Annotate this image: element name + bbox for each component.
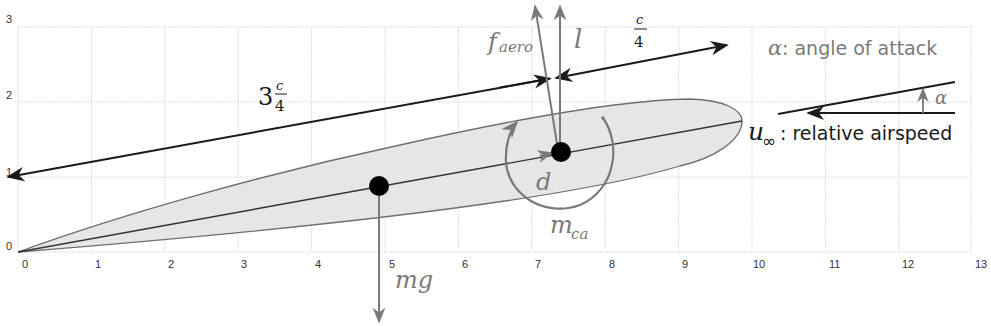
- angle-of-attack-inset: α: [778, 82, 955, 114]
- x-tick: 7: [535, 258, 541, 270]
- airspeed-legend: u ∞ : relative airspeed: [748, 117, 952, 151]
- svg-text:α: α: [935, 87, 947, 108]
- angle-of-attack-legend: α : angle of attack: [768, 36, 937, 60]
- aerodynamic-center-dot: [551, 142, 571, 162]
- svg-text:4: 4: [634, 33, 644, 51]
- weight-label: mg: [395, 266, 433, 294]
- svg-text:ca: ca: [571, 225, 588, 243]
- svg-text:: relative airspeed: : relative airspeed: [780, 122, 952, 144]
- x-tick: 6: [462, 258, 468, 270]
- moment-arc-start-dot: [601, 116, 605, 120]
- svg-text:4: 4: [275, 97, 285, 115]
- y-tick: 2: [6, 89, 12, 101]
- x-tick: 0: [22, 258, 28, 270]
- x-tick: 1: [95, 258, 101, 270]
- aero-force-label: f aero: [486, 28, 533, 56]
- airfoil-diagram: 0 1 2 3 4 5 6 7 8 9 10 11 12 13 0 1 2 3 …: [0, 0, 991, 326]
- y-tick-labels: 0 1 2 3: [6, 13, 12, 252]
- three-quarter-chord-arrow-tip: [500, 79, 550, 88]
- x-tick: 10: [753, 258, 765, 270]
- x-tick-labels: 0 1 2 3 4 5 6 7 8 9 10 11 12 13: [22, 258, 987, 270]
- x-tick: 9: [682, 258, 688, 270]
- x-tick: 13: [975, 258, 987, 270]
- x-tick: 8: [609, 258, 615, 270]
- y-tick: 0: [6, 240, 12, 252]
- svg-text:3: 3: [258, 83, 273, 111]
- inset-chord-line: [778, 82, 955, 114]
- x-tick: 11: [829, 258, 840, 270]
- svg-text:c: c: [636, 12, 644, 27]
- svg-text:m: m: [550, 211, 573, 239]
- svg-text:aero: aero: [499, 38, 533, 56]
- y-tick: 3: [6, 13, 12, 25]
- svg-text:: angle of attack: : angle of attack: [782, 37, 937, 59]
- center-of-gravity-dot: [369, 176, 389, 196]
- moment-label: m ca: [550, 211, 588, 243]
- x-tick: 3: [241, 258, 247, 270]
- three-quarter-chord-label: 3 c 4: [258, 78, 287, 115]
- drag-label: d: [536, 168, 551, 196]
- lift-label: l: [574, 24, 582, 54]
- x-tick: 4: [315, 258, 321, 270]
- svg-text:∞: ∞: [762, 131, 776, 151]
- svg-text:c: c: [276, 78, 284, 93]
- x-tick: 2: [168, 258, 174, 270]
- svg-text:α: α: [768, 36, 782, 60]
- x-tick: 12: [902, 258, 914, 270]
- quarter-chord-label: c 4: [634, 12, 647, 51]
